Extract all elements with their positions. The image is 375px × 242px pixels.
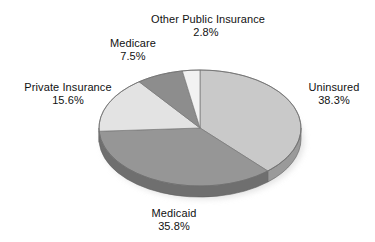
- slice-label-name: Medicaid: [126, 207, 222, 220]
- slice-label-name: Uninsured: [295, 81, 373, 94]
- slice-label-private-insurance: Private Insurance 15.6%: [6, 81, 130, 107]
- slice-label-value: 38.3%: [295, 94, 373, 107]
- slice-label-medicaid: Medicaid 35.8%: [126, 207, 222, 233]
- slice-label-other-public-insurance: Other Public Insurance 2.8%: [151, 13, 261, 39]
- slice-label-name: Private Insurance: [6, 81, 130, 94]
- slice-label-name: Other Public Insurance: [151, 13, 261, 26]
- pie-chart-figure: Other Public Insurance 2.8% Medicare 7.5…: [0, 0, 375, 242]
- slice-label-uninsured: Uninsured 38.3%: [295, 81, 373, 107]
- slice-label-value: 15.6%: [6, 94, 130, 107]
- slice-label-value: 35.8%: [126, 220, 222, 233]
- slice-label-value: 7.5%: [96, 50, 170, 63]
- slice-label-name: Medicare: [96, 37, 170, 50]
- slice-label-medicare: Medicare 7.5%: [96, 37, 170, 63]
